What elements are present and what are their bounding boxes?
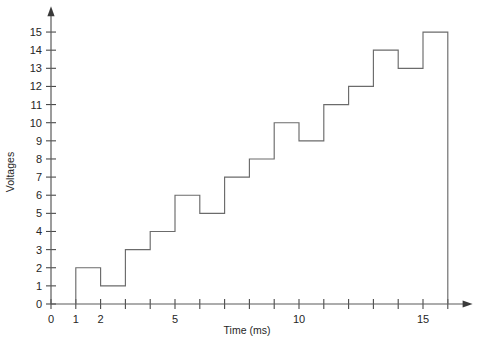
y-tick-label: 11 [31, 99, 42, 111]
x-axis-title: Time (ms) [224, 324, 271, 336]
x-tick-label: 1 [73, 313, 79, 325]
y-tick-label: 8 [36, 153, 42, 165]
y-axis-arrow-icon [47, 6, 54, 16]
chart-container: 0123456789101112131415 01251015 Time (ms… [0, 0, 494, 344]
y-tick-label: 9 [36, 135, 42, 147]
y-tick-label: 7 [36, 171, 42, 183]
y-tick-label: 6 [36, 189, 42, 201]
y-tick-label: 5 [36, 207, 42, 219]
y-tick-label: 2 [36, 262, 42, 274]
x-axis-arrow-icon [463, 300, 473, 307]
x-tick-label: 2 [98, 313, 104, 325]
x-tick-label: 10 [293, 313, 305, 325]
y-tick-label: 0 [36, 298, 42, 310]
voltage-step-series [76, 32, 448, 304]
x-tick-label: 15 [417, 313, 429, 325]
y-tick-label: 1 [36, 280, 42, 292]
y-axis-title: Voltages [4, 152, 16, 192]
y-tick-label: 15 [30, 26, 42, 38]
y-tick-label: 13 [30, 62, 42, 74]
y-tick-label: 10 [30, 117, 42, 129]
y-tick-label: 4 [36, 225, 42, 237]
x-tick-label: 0 [48, 313, 54, 325]
y-axis: 0123456789101112131415 [30, 26, 56, 310]
y-tick-label: 3 [36, 244, 42, 256]
y-tick-label: 12 [30, 80, 42, 92]
x-tick-label: 5 [172, 313, 178, 325]
y-tick-label: 14 [30, 44, 42, 56]
x-axis: 01251015 [48, 299, 448, 325]
step-chart-svg: 0123456789101112131415 01251015 Time (ms… [0, 0, 494, 344]
